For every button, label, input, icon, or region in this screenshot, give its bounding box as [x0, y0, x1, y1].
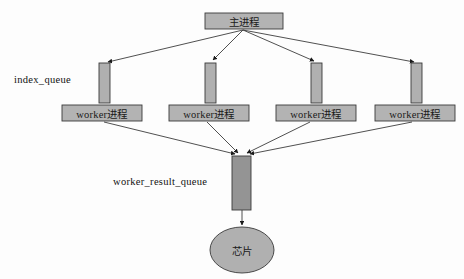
edge-main-to-index-queue-2: [213, 30, 243, 60]
index-queue-bar-2: [205, 63, 216, 103]
main-process-box: [205, 13, 283, 29]
worker-box-3: [276, 105, 356, 121]
worker-result-queue-bar: [232, 156, 251, 210]
index-queue-bar-4: [411, 63, 422, 103]
diagram-svg: [0, 0, 464, 279]
worker-box-4: [375, 105, 455, 121]
index-queue-bar-3: [311, 63, 322, 103]
diagram-canvas: 主进程 worker进程 worker进程 worker进程 worker进程 …: [0, 0, 464, 279]
edge-main-to-index-queue-4: [243, 30, 414, 62]
edge-worker-4-to-result-queue: [250, 122, 412, 154]
edge-main-to-index-queue-3: [243, 30, 314, 61]
worker-box-2: [169, 105, 249, 121]
index-queue-bar-1: [99, 63, 110, 103]
edges-workers-to-result-queue: [104, 122, 412, 154]
chip-ellipse: [210, 227, 274, 273]
worker-box-1: [62, 105, 142, 121]
index-queue-bars: [99, 63, 422, 103]
worker-boxes: [62, 105, 455, 121]
edge-main-to-index-queue-1: [108, 30, 243, 62]
worker-result-queue-label: worker_result_queue: [113, 176, 207, 187]
edges-main-to-queues: [108, 30, 414, 62]
index-queue-label: index_queue: [14, 74, 71, 85]
edge-worker-1-to-result-queue: [104, 122, 235, 154]
